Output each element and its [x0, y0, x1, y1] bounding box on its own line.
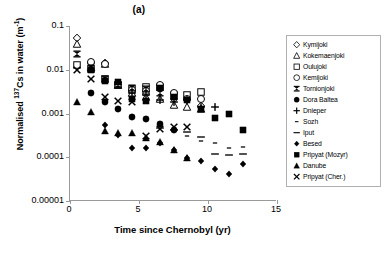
- data-point: [86, 107, 95, 116]
- legend-item-dora-baltea[interactable]: Dora Baltea: [290, 94, 378, 105]
- figure-panel: (a) Normalised 137Cs in water (m-1) 0.10…: [0, 0, 384, 265]
- filled-circle-icon: [290, 96, 303, 103]
- legend-item-iput[interactable]: Iput: [290, 127, 378, 138]
- data-point: [183, 96, 192, 105]
- data-point: [128, 98, 137, 107]
- y-axis-title-sup-isotope: 137: [13, 88, 20, 99]
- data-point: [155, 84, 164, 93]
- data-point: [100, 77, 109, 86]
- data-point: [224, 151, 233, 160]
- y-axis-tick-label: 0.00001: [6, 195, 64, 205]
- legend-item-sozh[interactable]: Sozh: [290, 116, 378, 127]
- data-point: [128, 113, 137, 122]
- data-point: [72, 40, 81, 49]
- data-point: [100, 60, 109, 69]
- star-icon: [290, 85, 303, 92]
- open-triangle-icon: [290, 52, 303, 59]
- legend-item-label: Pripyat (Cher.): [303, 173, 345, 180]
- data-point: [86, 75, 95, 84]
- x-axis-tick-label: 10: [195, 204, 219, 214]
- data-point: [155, 96, 164, 105]
- legend-item-label: Oulujoki: [303, 63, 327, 70]
- y-axis-tick: [66, 114, 70, 115]
- data-point: [169, 145, 178, 154]
- legend-item-tornionjoki[interactable]: Tornionjoki: [290, 83, 378, 94]
- data-point: [86, 65, 95, 74]
- x-axis-tick: [277, 200, 278, 204]
- plus-icon: [290, 107, 303, 114]
- y-axis-tick-label: 0.1: [6, 20, 64, 30]
- x-axis-tick: [139, 200, 140, 204]
- legend-item-label: Kemijoki: [303, 74, 328, 81]
- y-axis-title-mid: Cs in water (m: [15, 26, 25, 88]
- dash-long-icon: [290, 129, 303, 136]
- legend-item-label: Sozh: [303, 118, 318, 125]
- y-axis-tick: [66, 70, 70, 71]
- data-point: [72, 98, 81, 107]
- legend-item-label: Pripyat (Mozyr): [303, 151, 348, 158]
- data-point: [210, 164, 219, 173]
- data-point: [128, 128, 137, 137]
- x-axis-tick-label: 15: [264, 204, 288, 214]
- x-axis-tick: [208, 200, 209, 204]
- data-point: [197, 157, 206, 166]
- legend-item-label: Danube: [303, 162, 326, 169]
- legend-item-oulujoki[interactable]: Oulujoki: [290, 61, 378, 72]
- data-point: [210, 103, 219, 112]
- legend-item-dnieper[interactable]: Dnieper: [290, 105, 378, 116]
- data-point: [141, 132, 150, 141]
- y-axis-tick-label: 0.001: [6, 108, 64, 118]
- legend-item-kemijoki[interactable]: Kemijoki: [290, 72, 378, 83]
- filled-triangle-icon: [290, 162, 303, 169]
- legend-item-label: Tornionjoki: [303, 85, 334, 92]
- legend-item-danube[interactable]: Danube: [290, 160, 378, 171]
- legend-item-kymijoki[interactable]: Kymijoki: [290, 39, 378, 50]
- legend-item-label: Kokemaenjoki: [303, 52, 345, 59]
- data-point: [197, 104, 206, 113]
- data-point: [128, 144, 137, 153]
- data-point: [72, 50, 81, 59]
- legend-item-pripyat-mozyr[interactable]: Pripyat (Mozyr): [290, 149, 378, 160]
- legend-item-label: Iput: [303, 129, 314, 136]
- data-point: [238, 149, 247, 158]
- data-point: [155, 124, 164, 133]
- y-axis-tick-label: 0.0001: [6, 151, 64, 161]
- legend: KymijokiKokemaenjokiOulujokiKemijokiTorn…: [286, 35, 381, 187]
- legend-item-label: Besed: [303, 140, 322, 147]
- data-point: [210, 139, 219, 148]
- data-point: [224, 170, 233, 179]
- legend-item-label: Dora Baltea: [303, 96, 338, 103]
- y-axis-tick-label: 0.01: [6, 64, 64, 74]
- x-axis-tick: [70, 200, 71, 204]
- plot-area: [69, 26, 276, 201]
- data-point: [141, 114, 150, 123]
- open-diamond-icon: [290, 41, 303, 48]
- filled-diamond-icon: [290, 140, 303, 147]
- data-point: [210, 149, 219, 158]
- x-axis-title: Time since Chernobyl (yr): [69, 224, 276, 235]
- page-title: (a): [0, 4, 278, 15]
- open-circle-icon: [290, 74, 303, 81]
- cross-x-icon: [290, 173, 303, 180]
- data-point: [169, 122, 178, 131]
- data-point: [100, 92, 109, 101]
- y-axis-tick: [66, 26, 70, 27]
- data-point: [224, 110, 233, 119]
- data-point: [114, 97, 123, 106]
- dash-small-icon: [290, 118, 303, 125]
- data-point: [72, 65, 81, 74]
- data-point: [141, 97, 150, 106]
- data-point: [141, 144, 150, 153]
- data-point: [169, 92, 178, 101]
- legend-item-besed[interactable]: Besed: [290, 138, 378, 149]
- data-point: [210, 113, 219, 122]
- filled-square-icon: [290, 151, 303, 158]
- open-square-icon: [290, 63, 303, 70]
- data-point: [114, 78, 123, 87]
- x-axis-tick-label: 5: [126, 204, 150, 214]
- legend-item-kokemaenjoki[interactable]: Kokemaenjoki: [290, 50, 378, 61]
- data-point: [238, 160, 247, 169]
- legend-item-label: Dnieper: [303, 107, 326, 114]
- legend-item-pripyat-cher[interactable]: Pripyat (Cher.): [290, 171, 378, 182]
- data-point: [86, 89, 95, 98]
